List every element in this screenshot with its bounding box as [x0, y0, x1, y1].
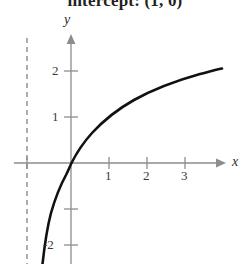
x-axis-arrowhead [216, 159, 226, 168]
y-tick-label-2: 2 [52, 63, 59, 79]
x-tick-label-1: 1 [105, 168, 112, 184]
y-tick-label-minus-2: -2 [43, 237, 54, 253]
y-tick-label-1: 1 [52, 109, 59, 125]
figure-container: intercept: (1, 0) [0, 0, 250, 264]
x-axis [14, 159, 226, 168]
logarithmic-curve [43, 69, 223, 264]
y-axis-label: y [64, 12, 70, 28]
graph-plot-area [0, 0, 250, 264]
y-axis [67, 34, 76, 264]
x-tick-label-3: 3 [181, 168, 188, 184]
y-axis-arrowhead [67, 34, 76, 44]
x-tick-label-2: 2 [143, 168, 150, 184]
x-axis-label: x [232, 154, 238, 170]
